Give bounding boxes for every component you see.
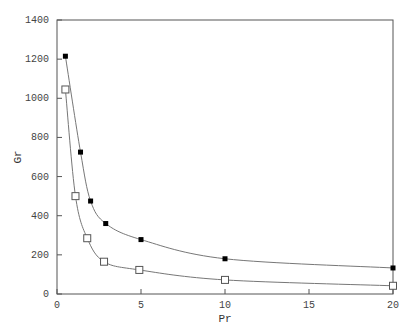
- filled-square-marker: [63, 54, 68, 59]
- open-square-marker: [136, 266, 143, 273]
- filled-square-marker: [88, 199, 93, 204]
- filled-square-marker: [78, 150, 83, 155]
- filled-square-marker: [139, 237, 144, 242]
- y-tick-label: 1200: [25, 54, 49, 65]
- open-square-marker: [390, 282, 397, 289]
- filled-square-marker: [103, 221, 108, 226]
- y-tick-label: 800: [31, 132, 49, 143]
- filled-square-marker: [223, 256, 228, 261]
- plot-frame: [57, 20, 393, 294]
- y-axis: 0200400600800100012001400: [25, 15, 62, 300]
- y-tick-label: 200: [31, 250, 49, 261]
- x-axis-title: Pr: [218, 313, 231, 325]
- x-tick-label: 10: [219, 300, 231, 311]
- chart: 0200400600800100012001400 05101520 Pr Gr: [0, 0, 413, 328]
- open-square-marker: [72, 193, 79, 200]
- open-square-marker: [101, 258, 108, 265]
- open-square-marker: [84, 235, 91, 242]
- x-axis: 05101520: [54, 289, 399, 311]
- series-line: [65, 56, 393, 268]
- series-line: [65, 89, 393, 285]
- y-tick-label: 600: [31, 172, 49, 183]
- x-tick-label: 5: [138, 300, 144, 311]
- y-tick-label: 0: [43, 289, 49, 300]
- y-tick-label: 1000: [25, 93, 49, 104]
- y-tick-label: 1400: [25, 15, 49, 26]
- filled-square-marker: [391, 265, 396, 270]
- plot-area: [57, 20, 393, 294]
- series-filled-squares: [63, 54, 396, 271]
- y-axis-title: Gr: [12, 150, 24, 163]
- y-tick-label: 400: [31, 211, 49, 222]
- x-tick-label: 0: [54, 300, 60, 311]
- x-tick-label: 20: [387, 300, 399, 311]
- open-square-marker: [222, 276, 229, 283]
- open-square-marker: [62, 86, 69, 93]
- x-tick-label: 15: [303, 300, 315, 311]
- data-series: [62, 54, 397, 290]
